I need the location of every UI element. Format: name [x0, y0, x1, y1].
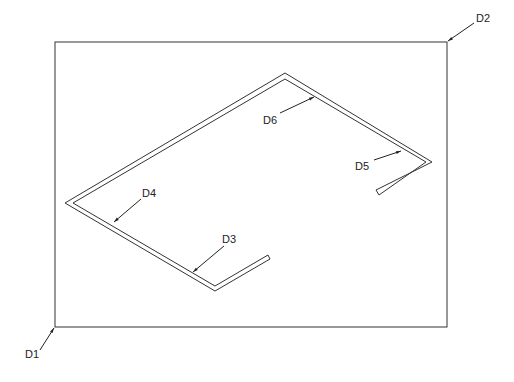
label-d3: D3 [222, 233, 236, 245]
label-d2: D2 [476, 12, 490, 24]
polyline-end-cap-bottom [268, 255, 270, 259]
leader-d2-arrow [448, 23, 474, 41]
label-d1: D1 [25, 348, 39, 360]
leader-d4-arrow [114, 199, 141, 222]
label-d4: D4 [142, 187, 156, 199]
leader-lines [40, 23, 474, 350]
drawing-frame [55, 42, 447, 327]
leader-d5-arrow [374, 151, 401, 160]
leader-d1-arrow [40, 328, 54, 350]
label-d6: D6 [263, 114, 277, 126]
polyline-end-cap-right [376, 190, 379, 195]
polyline-outer-edge [65, 73, 432, 291]
leader-d3-arrow [193, 246, 224, 272]
leader-d6-arrow [280, 97, 314, 113]
polyline-inner-edge [73, 79, 426, 286]
isometric-polyline [65, 73, 432, 291]
label-d5: D5 [355, 160, 369, 172]
cad-drawing-canvas: D1 D2 D3 D4 D5 D6 [0, 0, 514, 382]
